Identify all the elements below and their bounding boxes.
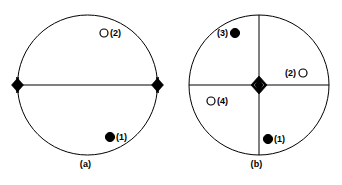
data-point-b-3 — [230, 28, 239, 37]
left-edge-lens-marker-a-outer — [12, 77, 19, 93]
data-point-label-b-1: (1) — [274, 134, 285, 144]
stereonet-diagram-b: (3) (2) (4) (1) — [171, 0, 342, 170]
panel-caption-b: (b) — [171, 159, 342, 170]
data-point-label-b-3: (3) — [217, 28, 228, 38]
data-point-a-2 — [100, 29, 108, 37]
data-point-b-4 — [207, 97, 215, 105]
stereonet-panel-b: (3) (2) (4) (1) (b) — [171, 0, 342, 185]
data-point-label-b-4: (4) — [217, 96, 228, 106]
data-point-a-1 — [105, 132, 114, 141]
panel-caption-a: (a) — [0, 159, 171, 170]
figure-root: (2) (1) (a) (3) (2) (4) — [0, 0, 342, 185]
data-point-label-a-2: (2) — [110, 28, 121, 38]
data-point-label-a-1: (1) — [116, 132, 127, 142]
stereonet-diagram-a: (2) (1) — [0, 0, 171, 170]
data-point-b-1 — [263, 134, 272, 143]
right-edge-lens-marker-a-outer — [157, 77, 164, 93]
data-point-label-b-2: (2) — [285, 68, 296, 78]
data-point-b-2 — [299, 69, 307, 77]
stereonet-panel-a: (2) (1) (a) — [0, 0, 171, 185]
